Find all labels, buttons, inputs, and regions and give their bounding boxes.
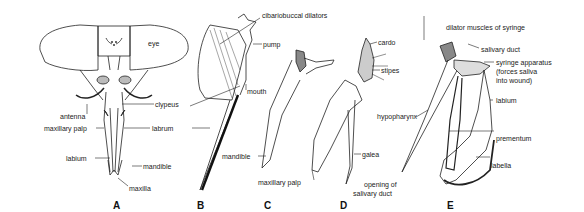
mouthparts-drawing-c bbox=[262, 50, 334, 168]
panel-label-c: C bbox=[264, 200, 271, 211]
mouthparts-drawing-d bbox=[312, 38, 388, 184]
panel-label-e: E bbox=[447, 200, 454, 211]
label-galea: galea bbox=[362, 151, 379, 159]
panel-label-d: D bbox=[340, 200, 347, 211]
label-syringe-line3: into wound) bbox=[496, 77, 532, 85]
label-opening-line1: opening of bbox=[364, 181, 397, 189]
label-mandible-a: mandible bbox=[143, 163, 171, 171]
label-antenna: antenna bbox=[60, 113, 85, 121]
label-salivary-duct: salivary duct bbox=[481, 46, 520, 54]
mouthparts-figure: eye antenna clypeus maxillary palp labru… bbox=[0, 0, 584, 212]
label-mandible-c: mandible bbox=[222, 153, 250, 161]
label-dilator-muscles: dilator muscles of syringe bbox=[446, 24, 525, 32]
label-labium-e: labium bbox=[496, 97, 517, 105]
panel-label-a: A bbox=[113, 200, 120, 211]
label-maxilla: maxilla bbox=[129, 185, 151, 193]
label-opening-line2: salivary duct bbox=[353, 190, 392, 198]
head-drawing-a bbox=[40, 25, 188, 175]
label-hypopharynx: hypopharynx bbox=[377, 113, 417, 121]
label-prementum: prementum bbox=[496, 135, 531, 143]
label-mouth: mouth bbox=[247, 88, 266, 96]
label-syringe-line2: (forces saliva bbox=[496, 68, 537, 76]
panel-label-b: B bbox=[197, 200, 204, 211]
label-cardo: cardo bbox=[378, 39, 396, 47]
label-labella: labella bbox=[491, 162, 511, 170]
label-maxillary-palp-a: maxillary palp bbox=[44, 125, 87, 133]
label-cibariobuccal-dilators: cibariobuccal dilators bbox=[262, 12, 327, 20]
label-pump: pump bbox=[263, 41, 281, 49]
label-labium-a: labium bbox=[66, 155, 87, 163]
label-stipes: stipes bbox=[381, 67, 399, 75]
label-syringe-line1: syringe apparatus bbox=[496, 59, 552, 67]
label-clypeus: clypeus bbox=[155, 101, 179, 109]
mouthparts-drawing-b bbox=[198, 14, 256, 190]
label-maxillary-palp-c: maxillary palp bbox=[258, 179, 301, 187]
label-labrum: labrum bbox=[152, 125, 173, 133]
label-eye: eye bbox=[148, 40, 159, 48]
